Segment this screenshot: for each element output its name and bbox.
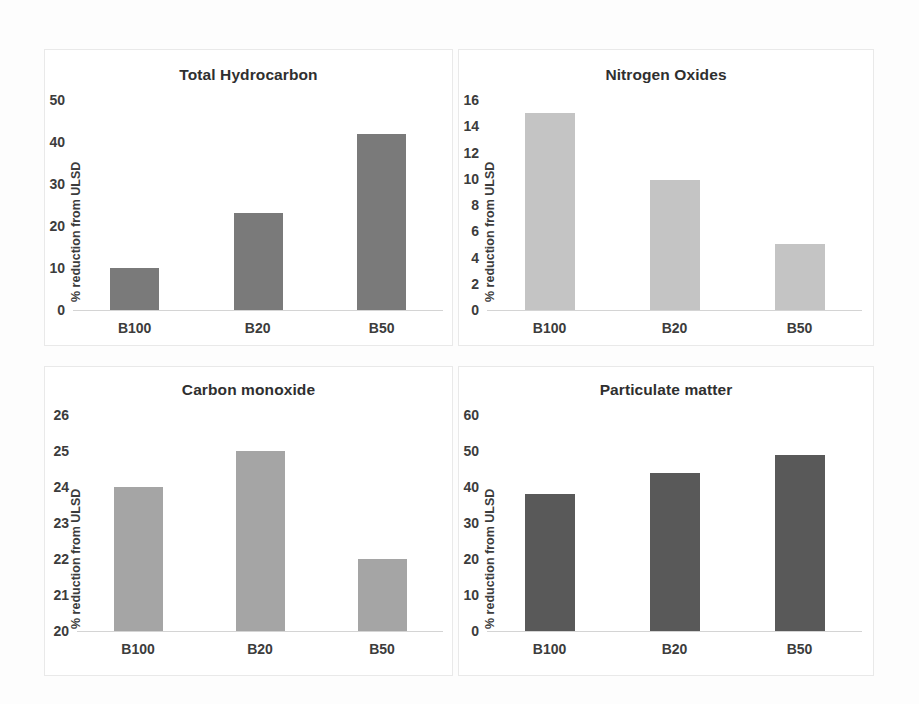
bar-b20: [234, 213, 283, 310]
x-tick-label: B100: [487, 320, 612, 336]
y-tick-label: 50: [27, 92, 65, 108]
x-tick-label: B20: [196, 320, 319, 336]
chart-panel-particulate-matter: Particulate matter % reduction from ULSD…: [458, 366, 874, 676]
x-tick-label: B50: [737, 641, 862, 657]
y-tick-label: 50: [441, 443, 479, 459]
bar-b100: [525, 494, 575, 631]
y-tick-label: 21: [31, 587, 69, 603]
y-tick-label: 6: [441, 223, 479, 239]
y-tick-label: 14: [441, 118, 479, 134]
x-axis-line: [487, 631, 862, 632]
y-tick-label: 4: [441, 250, 479, 266]
plot-area-nitrogen-oxides: 0246810121416B100B20B50: [487, 100, 862, 310]
y-tick-label: 10: [441, 587, 479, 603]
x-tick-label: B20: [199, 641, 321, 657]
x-axis-line: [77, 631, 443, 632]
bar-b50: [775, 455, 825, 631]
x-tick-label: B100: [487, 641, 612, 657]
chart-panel-nitrogen-oxides: Nitrogen Oxides % reduction from ULSD 02…: [458, 49, 874, 346]
bar-b100: [114, 487, 163, 631]
y-tick-label: 23: [31, 515, 69, 531]
bar-b20: [236, 451, 285, 631]
plot-area-total-hydrocarbon: 01020304050B100B20B50: [73, 100, 443, 310]
chart-title-nitrogen-oxides: Nitrogen Oxides: [459, 66, 873, 84]
x-tick-label: B50: [321, 641, 443, 657]
bar-b20: [650, 180, 700, 310]
y-tick-label: 10: [27, 260, 65, 276]
y-tick-label: 22: [31, 551, 69, 567]
y-tick-label: 30: [27, 176, 65, 192]
y-tick-label: 12: [441, 145, 479, 161]
x-axis-line: [73, 310, 443, 311]
y-tick-label: 20: [441, 551, 479, 567]
x-tick-label: B20: [612, 320, 737, 336]
y-tick-label: 25: [31, 443, 69, 459]
x-axis-line: [487, 310, 862, 311]
y-tick-label: 26: [31, 407, 69, 423]
x-tick-label: B50: [320, 320, 443, 336]
chart-panel-total-hydrocarbon: Total Hydrocarbon % reduction from ULSD …: [44, 49, 453, 346]
y-tick-label: 16: [441, 92, 479, 108]
y-tick-label: 40: [27, 134, 65, 150]
x-tick-label: B20: [612, 641, 737, 657]
y-tick-label: 0: [441, 302, 479, 318]
plot-area-particulate-matter: 0102030405060B100B20B50: [487, 415, 862, 631]
figure-canvas: Total Hydrocarbon % reduction from ULSD …: [0, 0, 919, 704]
y-tick-label: 30: [441, 515, 479, 531]
chart-panel-carbon-monoxide: Carbon monoxide % reduction from ULSD 20…: [44, 366, 453, 676]
y-tick-label: 20: [27, 218, 65, 234]
chart-title-total-hydrocarbon: Total Hydrocarbon: [45, 66, 452, 84]
bar-b20: [650, 473, 700, 631]
y-tick-label: 8: [441, 197, 479, 213]
y-tick-label: 24: [31, 479, 69, 495]
chart-title-particulate-matter: Particulate matter: [459, 381, 873, 399]
plot-area-carbon-monoxide: 20212223242526B100B20B50: [77, 415, 443, 631]
x-tick-label: B50: [737, 320, 862, 336]
y-tick-label: 0: [27, 302, 65, 318]
y-tick-label: 40: [441, 479, 479, 495]
y-tick-label: 0: [441, 623, 479, 639]
x-tick-label: B100: [73, 320, 196, 336]
x-tick-label: B100: [77, 641, 199, 657]
bar-b100: [525, 113, 575, 310]
y-tick-label: 10: [441, 171, 479, 187]
y-tick-label: 60: [441, 407, 479, 423]
bar-b100: [110, 268, 159, 310]
bar-b50: [358, 559, 407, 631]
y-tick-label: 2: [441, 276, 479, 292]
y-tick-label: 20: [31, 623, 69, 639]
chart-title-carbon-monoxide: Carbon monoxide: [45, 381, 452, 399]
bar-b50: [775, 244, 825, 310]
bar-b50: [357, 134, 406, 310]
